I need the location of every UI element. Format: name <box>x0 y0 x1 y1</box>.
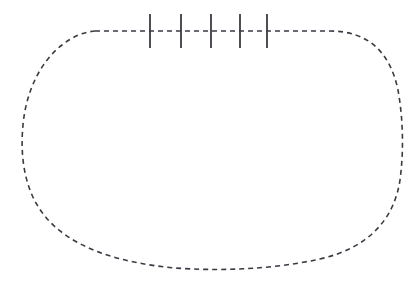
figure-canvas <box>0 0 417 290</box>
dashed-contour-figure <box>0 0 417 290</box>
